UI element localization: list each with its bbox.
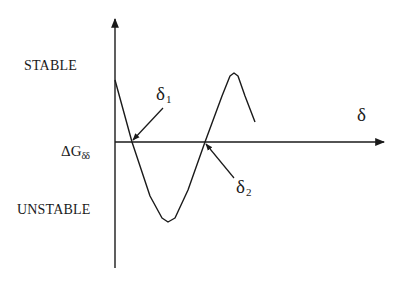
stability-diagram <box>0 0 404 284</box>
delta2-label-subscript: 2 <box>246 186 252 198</box>
delta1-pointer-arrow <box>133 108 163 140</box>
free-energy-curve <box>115 73 255 222</box>
delta1-label: δ1 <box>156 84 171 105</box>
y-axis-label: ΔGδδ <box>61 144 89 161</box>
stable-region-label: STABLE <box>24 59 77 73</box>
delta2-label: δ2 <box>236 177 251 198</box>
x-axis-label: δ <box>357 105 366 124</box>
y-axis-label-subscript: δδ <box>81 150 88 161</box>
delta1-label-main: δ <box>156 83 165 104</box>
delta2-label-main: δ <box>236 176 245 197</box>
unstable-region-label: UNSTABLE <box>17 203 91 217</box>
delta2-pointer-arrow <box>206 144 234 178</box>
y-axis-label-main: ΔG <box>61 143 81 159</box>
delta1-label-subscript: 1 <box>166 93 172 105</box>
